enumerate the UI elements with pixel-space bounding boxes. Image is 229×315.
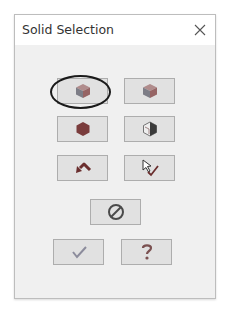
pick-check-button[interactable]	[124, 155, 175, 181]
undo-button[interactable]	[57, 155, 108, 181]
undo-arrow-icon	[74, 161, 92, 175]
select-solid-section-button[interactable]	[124, 116, 175, 142]
cube-sectioned-icon	[142, 121, 158, 137]
close-button[interactable]	[189, 19, 211, 41]
select-solid-dark-button[interactable]	[57, 116, 108, 142]
select-solid-button[interactable]	[57, 78, 108, 104]
solid-selection-dialog: Solid Selection	[14, 14, 216, 299]
cube-shaded-icon	[75, 83, 91, 99]
title-bar: Solid Selection	[15, 15, 215, 45]
close-icon	[194, 24, 206, 36]
checkmark-icon	[71, 245, 87, 259]
cursor-check-icon	[141, 159, 159, 177]
ok-button[interactable]	[53, 239, 104, 265]
select-solid-alt-button[interactable]	[124, 78, 175, 104]
dialog-title: Solid Selection	[22, 22, 114, 37]
question-mark-icon	[140, 243, 154, 261]
help-button[interactable]	[121, 239, 172, 265]
prohibited-icon	[107, 203, 125, 221]
cancel-selection-button[interactable]	[90, 199, 141, 225]
hexagon-solid-icon	[75, 121, 91, 137]
cube-shaded-icon	[142, 83, 158, 99]
